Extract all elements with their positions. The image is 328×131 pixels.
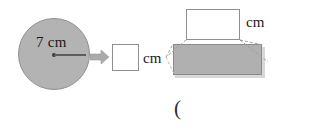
caption-paren: (	[174, 96, 181, 121]
radius-line	[54, 54, 86, 56]
unit-label-left: cm	[143, 50, 161, 67]
figure-canvas: 7 cm cm cm (	[0, 0, 328, 131]
transform-arrow-icon	[90, 49, 110, 65]
unit-label-top: cm	[246, 14, 264, 31]
radius-label: 7 cm	[36, 34, 67, 51]
answer-blank-top[interactable]	[186, 9, 240, 40]
rectangular-prism	[173, 44, 262, 75]
answer-blank-left[interactable]	[112, 44, 139, 71]
